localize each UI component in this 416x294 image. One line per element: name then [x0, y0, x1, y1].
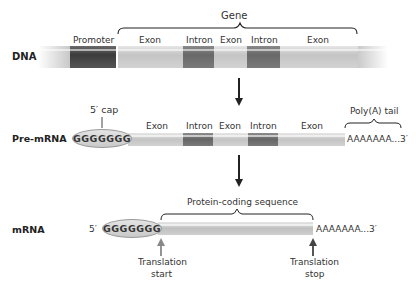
pre-mrna-label-exon: Exon: [301, 121, 323, 131]
pre-mrna-label-intron: Intron: [250, 121, 277, 131]
pre-mrna-label-exon: Exon: [146, 121, 168, 131]
gene-brace: [118, 23, 357, 34]
translation-start-label-line1: Translation: [138, 257, 187, 267]
gene-label: Gene: [221, 10, 247, 21]
poly-a-brace: [345, 119, 401, 128]
dna-label-intron: Intron: [186, 35, 213, 45]
translation-stop-label-line1: Translation: [290, 257, 339, 267]
dna-label-exon: Exon: [220, 35, 242, 45]
translation-stop-label-line2: stop: [305, 269, 324, 279]
translation-start-label-line2: start: [151, 269, 172, 279]
poly-a-label: Poly(A) tail: [350, 106, 399, 116]
pre-mrna-label-exon: Exon: [219, 121, 241, 131]
coding-sequence-label: Protein-coding sequence: [187, 197, 298, 207]
mrna-poly-a-sequence: AAAAAAA...3′: [316, 224, 377, 234]
mrna-row-label: mRNA: [12, 224, 45, 235]
dna-row-label: DNA: [12, 51, 36, 62]
dna-label-promoter: Promoter: [73, 35, 114, 45]
cap-label: 5′ cap: [90, 104, 118, 115]
pre-mrna-poly-a-sequence: AAAAAAA...3′: [347, 134, 408, 144]
dna-label-exon: Exon: [307, 35, 329, 45]
pre-mrna-cap: GGGGGGG: [72, 129, 132, 148]
mrna-cap: GGGGGGG: [102, 219, 162, 238]
pre-mrna-row-label: Pre-mRNA: [12, 133, 67, 144]
coding-brace: [161, 209, 313, 220]
dna-label-intron: Intron: [251, 35, 278, 45]
mrna-five-prime: 5′: [89, 224, 97, 234]
dna-label-exon: Exon: [139, 35, 161, 45]
pre-mrna-label-intron: Intron: [186, 121, 213, 131]
